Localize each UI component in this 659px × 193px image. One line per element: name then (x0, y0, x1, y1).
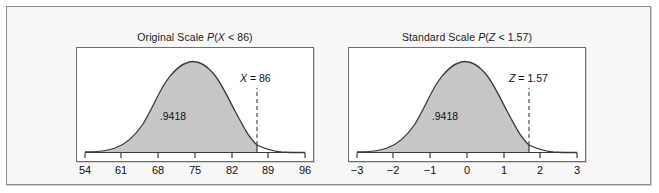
axis-ticks-standard (357, 153, 577, 159)
annotation-equals-x: = (247, 72, 259, 84)
plot-box-original-scale: .9418 X = 86 (76, 47, 314, 162)
plot-box-standard-scale: .9418 Z = 1.57 (348, 47, 586, 162)
panel-title-prefix: Original Scale (137, 31, 207, 43)
panel-title-variable: X (218, 31, 225, 43)
tick-label: 3 (574, 164, 580, 176)
annotation-x-value: X = 86 (240, 72, 271, 84)
axis-ticks-original (85, 153, 305, 159)
tick-label: −2 (387, 164, 400, 176)
tick-label: −3 (351, 164, 364, 176)
annotation-z-value: Z = 1.57 (509, 72, 548, 84)
tick-label: 89 (262, 164, 274, 176)
panel-title-relation: < (225, 31, 237, 43)
panel-original-scale: Original Scale P(X < 86) (76, 31, 314, 162)
tick-label: 54 (79, 164, 91, 176)
axis-labels-standard-scale: −3 −2 −1 0 1 2 3 (348, 164, 586, 180)
panel-standard-scale: Standard Scale P(Z < 1.57) . (348, 31, 586, 162)
annotation-value-z: 1.57 (527, 72, 547, 84)
tick-label: 1 (501, 164, 507, 176)
panel-title-close-paren: ) (249, 31, 253, 43)
normal-curve-standard-scale (349, 48, 585, 161)
tick-label: 2 (537, 164, 543, 176)
tick-label: 96 (299, 164, 311, 176)
probability-label-original: .9418 (160, 110, 186, 122)
panel-title-standard-scale: Standard Scale P(Z < 1.57) (348, 31, 586, 43)
tick-label: 68 (152, 164, 164, 176)
tick-label: −1 (424, 164, 437, 176)
annotation-equals-z: = (515, 72, 527, 84)
normal-curve-original-scale (77, 48, 313, 161)
panel-title-value: 86 (237, 31, 249, 43)
annotation-value-x: 86 (259, 72, 271, 84)
tick-label: 0 (464, 164, 470, 176)
panel-title-prefix: Standard Scale (402, 31, 478, 43)
panel-title-value: 1.57 (508, 31, 529, 43)
probability-label-standard: .9418 (432, 110, 458, 122)
tick-label: 75 (189, 164, 201, 176)
tick-label: 61 (115, 164, 127, 176)
panel-title-close-paren: ) (528, 31, 532, 43)
annotation-variable-x: X (240, 72, 247, 84)
panel-title-relation: < (495, 31, 507, 43)
figure-frame: Original Scale P(X < 86) (6, 6, 651, 185)
axis-labels-original-scale: 54 61 68 75 82 89 96 (76, 164, 314, 180)
tick-label: 82 (226, 164, 238, 176)
panel-title-original-scale: Original Scale P(X < 86) (76, 31, 314, 43)
